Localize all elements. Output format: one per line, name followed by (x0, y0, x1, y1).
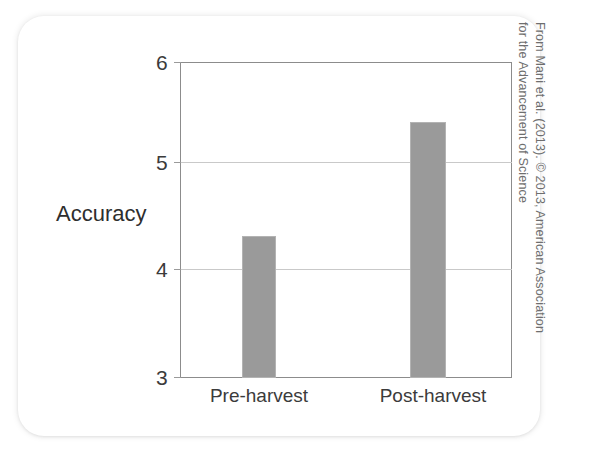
y-tick-label-6: 6 (128, 52, 168, 73)
x-tick-label-pre-harvest: Pre-harvest (189, 386, 329, 405)
y-tick-label-5: 5 (128, 152, 168, 173)
bar-pre-harvest (242, 236, 276, 378)
x-tick-label-post-harvest: Post-harvest (358, 386, 508, 405)
gridline-5 (180, 162, 512, 163)
y-tick-mark-5 (174, 162, 181, 163)
plot-area (180, 62, 512, 378)
figure-root: Accuracy 6 5 4 3 Pre-harvest Post-harves… (0, 0, 610, 452)
y-tick-label-4: 4 (128, 259, 168, 280)
source-credit-line-2: for the Advancement of Science (514, 22, 531, 432)
gridline-4 (180, 269, 512, 270)
y-axis-title: Accuracy (56, 203, 146, 225)
y-tick-mark-3 (174, 377, 181, 378)
bar-post-harvest (410, 122, 446, 378)
source-credit: From Mani et al. (2013). © 2013, America… (504, 22, 548, 432)
y-tick-mark-4 (174, 269, 181, 270)
y-tick-label-3: 3 (128, 367, 168, 388)
source-credit-line-1: From Mani et al. (2013). © 2013, America… (531, 22, 548, 432)
y-tick-mark-6 (174, 62, 181, 63)
